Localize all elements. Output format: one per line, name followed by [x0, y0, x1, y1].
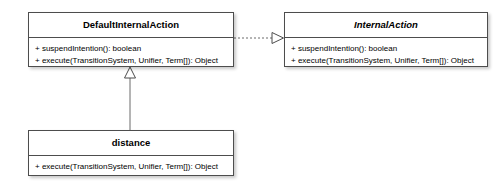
- uml-class-default-internal-action[interactable]: DefaultInternalAction + suspendIntention…: [28, 12, 234, 67]
- class-name-default-internal-action: DefaultInternalAction: [29, 13, 233, 38]
- hollow-triangle-arrowhead-icon: [272, 33, 284, 44]
- class-members-distance: + execute(TransitionSystem, Unifier, Ter…: [29, 156, 233, 178]
- class-members-internal-action: + suspendIntention(): boolean + execute(…: [285, 38, 487, 72]
- uml-class-distance[interactable]: distance + execute(TransitionSystem, Uni…: [28, 130, 234, 176]
- class-member: + suspendIntention(): boolean: [291, 43, 482, 55]
- uml-class-diagram: DefaultInternalAction + suspendIntention…: [0, 0, 504, 187]
- class-members-default-internal-action: + suspendIntention(): boolean + execute(…: [29, 38, 233, 72]
- class-name-distance: distance: [29, 131, 233, 156]
- generalization-edge-distance-to-default: [125, 67, 136, 130]
- class-member: + execute(TransitionSystem, Unifier, Ter…: [291, 55, 482, 67]
- class-member: + execute(TransitionSystem, Unifier, Ter…: [35, 161, 228, 173]
- uml-class-internal-action[interactable]: InternalAction + suspendIntention(): boo…: [284, 12, 488, 67]
- class-name-internal-action: InternalAction: [285, 13, 487, 38]
- class-member: + execute(TransitionSystem, Unifier, Ter…: [35, 55, 228, 67]
- realization-edge-default-to-internal: [234, 33, 284, 44]
- class-member: + suspendIntention(): boolean: [35, 43, 228, 55]
